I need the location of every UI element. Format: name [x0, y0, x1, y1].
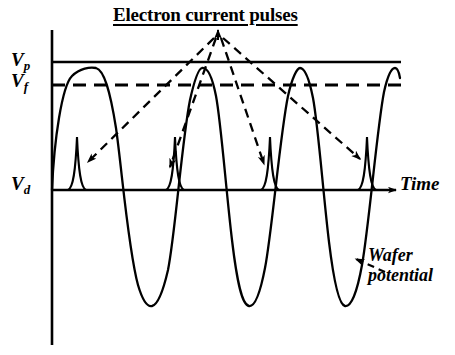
figure-container: Electron current pulses Vp Vf Vd Time Wa…: [0, 0, 455, 355]
axis-label-vd-symbol: V: [11, 173, 24, 194]
axis-label-vd-subscript: d: [24, 182, 31, 197]
annotation-wafer-potential: Waferpotential: [368, 246, 433, 284]
callout-arrow-to-pulse-3: [221, 38, 264, 164]
axis-label-vf-symbol: V: [11, 70, 24, 91]
wafer-potential-waveform: [52, 68, 400, 306]
callout-arrow-to-pulse-2: [170, 38, 216, 167]
axis-label-vf-subscript: f: [24, 79, 28, 94]
callout-arrow-to-pulse-4: [223, 38, 360, 159]
waveform-diagram-svg: [0, 0, 455, 355]
axis-label-vf: Vf: [11, 71, 28, 90]
axis-label-time: Time: [400, 174, 439, 193]
annotation-wafer-potential-line2: potential: [368, 266, 433, 284]
axis-label-vp-symbol: V: [11, 49, 24, 70]
title-electron-current-pulses: Electron current pulses: [113, 4, 298, 26]
axis-label-vd: Vd: [11, 174, 30, 193]
current-pulse-1: [68, 137, 86, 190]
axis-label-vp: Vp: [11, 50, 30, 69]
annotation-wafer-potential-line1: Wafer: [368, 245, 413, 265]
